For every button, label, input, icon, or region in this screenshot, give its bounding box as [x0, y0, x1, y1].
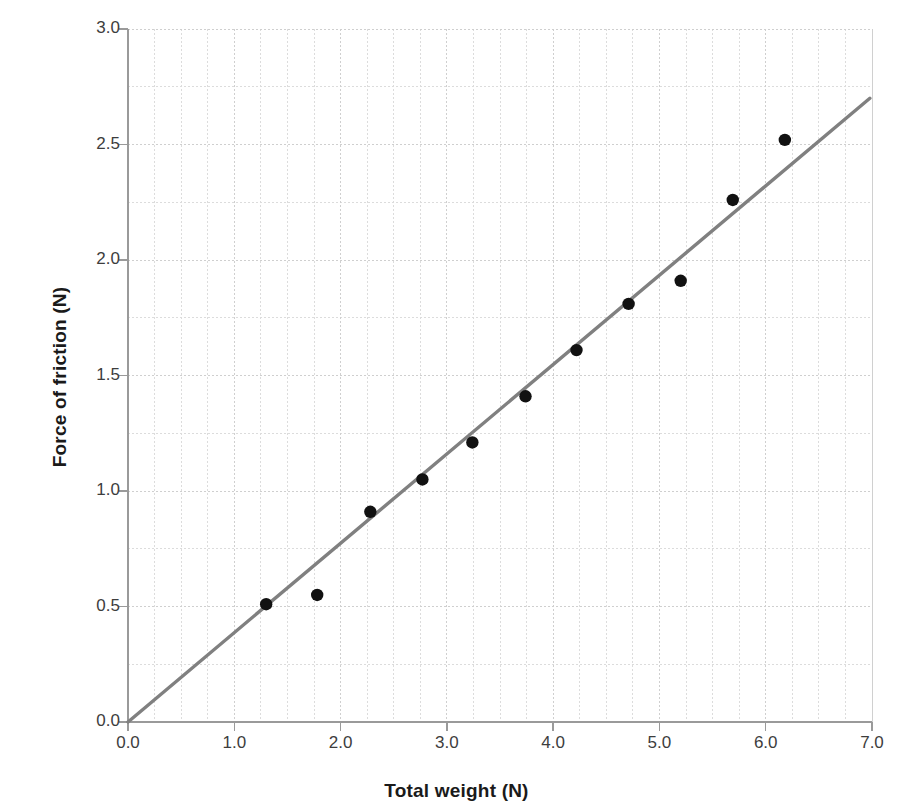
chart-figure: Force of friction (N) Total weight (N) 0… — [0, 0, 913, 810]
y-tick-label: 1.0 — [60, 480, 120, 500]
x-tick-label: 0.0 — [98, 733, 158, 753]
y-tick-label: 0.0 — [60, 711, 120, 731]
x-tick-label: 3.0 — [417, 733, 477, 753]
x-tick-label: 2.0 — [311, 733, 371, 753]
plot-area — [0, 0, 913, 810]
y-tick-label: 2.5 — [60, 134, 120, 154]
data-points — [260, 134, 791, 611]
x-tick-label: 7.0 — [842, 733, 902, 753]
tick-marks — [119, 29, 872, 731]
y-tick-label: 3.0 — [60, 18, 120, 38]
y-tick-label: 0.5 — [60, 596, 120, 616]
y-tick-label: 1.5 — [60, 365, 120, 385]
x-tick-label: 5.0 — [629, 733, 689, 753]
y-tick-label: 2.0 — [60, 249, 120, 269]
trend-line — [128, 98, 870, 722]
x-tick-label: 1.0 — [204, 733, 264, 753]
x-tick-label: 4.0 — [523, 733, 583, 753]
x-tick-label: 6.0 — [736, 733, 796, 753]
